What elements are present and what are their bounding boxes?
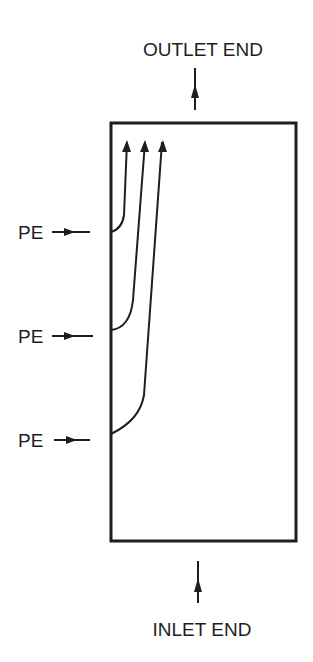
pe-label: PE xyxy=(18,326,43,347)
arrow-right-icon xyxy=(66,436,77,444)
injection-point-2: PE xyxy=(18,326,93,347)
inlet-arrow-icon xyxy=(194,561,202,603)
flow-path-2 xyxy=(111,142,145,330)
pe-label: PE xyxy=(18,222,43,243)
injection-point-1: PE xyxy=(18,222,90,243)
arrow-right-icon xyxy=(64,332,75,340)
flow-path-1 xyxy=(111,142,127,232)
outlet-end-label: OUTLET END xyxy=(143,39,263,60)
injection-point-3: PE xyxy=(18,430,90,451)
flow-paths xyxy=(111,142,162,434)
arrowhead-icon xyxy=(122,140,131,152)
arrowhead-icon xyxy=(158,140,167,152)
arrowhead-icon xyxy=(140,140,149,152)
column-diagram: OUTLET END PE PE PE INLET END xyxy=(0,0,313,662)
outlet-arrow-icon xyxy=(191,68,199,110)
arrow-right-icon xyxy=(64,228,75,236)
column-box xyxy=(111,123,296,541)
pe-label: PE xyxy=(18,430,43,451)
inlet-end-label: INLET END xyxy=(153,619,252,640)
flow-arrowheads xyxy=(122,140,167,152)
flow-path-3 xyxy=(111,142,162,434)
